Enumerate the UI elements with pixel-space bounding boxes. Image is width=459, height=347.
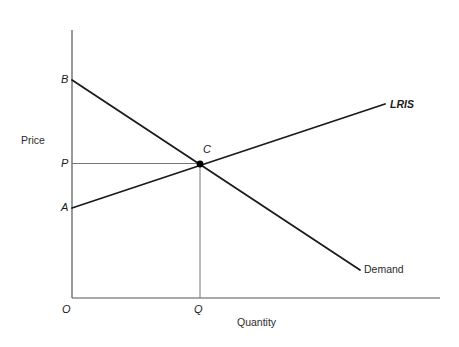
- chart-canvas: [0, 0, 459, 347]
- demand-curve-line: [72, 80, 360, 270]
- demand-curve-label: Demand: [364, 264, 404, 275]
- economics-supply-demand-figure: Price Quantity B A P C Q O LRIS Demand: [0, 0, 459, 347]
- point-label-p: P: [61, 158, 68, 169]
- equilibrium-point-marker: [197, 161, 204, 168]
- y-axis-title: Price: [21, 135, 45, 146]
- point-label-c: C: [203, 144, 211, 155]
- point-label-b: B: [61, 74, 68, 85]
- point-label-origin: O: [62, 304, 71, 315]
- point-label-a: A: [61, 202, 68, 213]
- lris-curve-label: LRIS: [390, 99, 414, 110]
- x-axis-title: Quantity: [237, 317, 276, 328]
- lris-supply-curve-line: [72, 104, 385, 208]
- point-label-q: Q: [194, 304, 203, 315]
